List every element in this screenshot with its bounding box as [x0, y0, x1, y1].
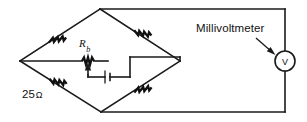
- resistor-symbol-lower-right: [134, 86, 151, 92]
- bridge-resistance-label: 25Ω: [22, 89, 43, 101]
- ohm-unit-symbol: Ω: [35, 90, 43, 100]
- bridge-arm-lower-right: [101, 61, 180, 112]
- meter-v-glyph: V: [282, 57, 288, 67]
- resistor-symbol-lower-left: [50, 79, 67, 85]
- millivoltmeter-leader-arrow: [256, 38, 276, 55]
- bridge-arm-upper-right: [100, 9, 180, 61]
- resistor-symbol-upper-left: [49, 36, 66, 42]
- circuit-diagram-figure: V Millivoltmeter 25Ω Rb: [0, 0, 307, 122]
- potentiometer-label: Rb: [79, 38, 90, 52]
- circuit-schematic-svg: V: [0, 0, 307, 122]
- resistor-symbol-upper-right: [134, 30, 151, 36]
- millivoltmeter-symbol: V: [275, 51, 295, 71]
- potentiometer-label-subscript: b: [86, 45, 90, 54]
- bridge-resistance-value: 25: [22, 88, 35, 100]
- millivoltmeter-label: Millivoltmeter: [196, 23, 265, 35]
- bridge-supply-branch: [20, 57, 180, 84]
- potentiometer-label-symbol: R: [79, 37, 86, 49]
